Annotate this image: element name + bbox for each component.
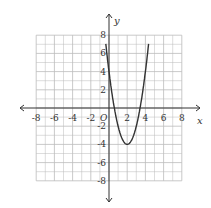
- x-tick-label: 8: [179, 113, 185, 123]
- x-tick-label: -4: [68, 113, 77, 123]
- y-tick-label: 2: [100, 85, 106, 95]
- x-tick-label: 6: [161, 113, 167, 123]
- axes: [20, 14, 200, 202]
- x-tick-label: -8: [32, 113, 41, 123]
- y-tick-label: -8: [97, 176, 106, 186]
- y-tick-label: 8: [100, 30, 106, 40]
- origin-label: O: [100, 113, 108, 123]
- x-tick-label: 2: [124, 113, 130, 123]
- x-tick-label: 4: [143, 113, 149, 123]
- y-tick-label: 6: [100, 48, 106, 58]
- y-tick-label: -4: [97, 139, 106, 149]
- y-tick-label: 4: [100, 67, 106, 77]
- y-axis-label: y: [113, 15, 120, 26]
- coordinate-plane: -8-6-4-22468-8-6-4-22468 x y O: [0, 0, 211, 208]
- x-tick-label: -2: [86, 113, 95, 123]
- x-axis-label: x: [197, 115, 203, 126]
- y-tick-label: -6: [97, 158, 106, 168]
- x-tick-label: -6: [50, 113, 59, 123]
